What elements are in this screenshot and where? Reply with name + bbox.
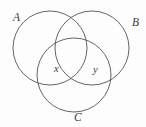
region-label-x: x: [54, 64, 59, 75]
region-label-y: y: [93, 65, 98, 76]
set-label-c: C: [74, 112, 82, 124]
circle-set-a: [13, 11, 87, 85]
circle-set-c: [37, 38, 111, 112]
circle-set-b: [55, 11, 129, 85]
set-label-b: B: [132, 17, 139, 29]
venn-diagram-figure: A B C x y: [0, 0, 146, 127]
set-label-a: A: [13, 12, 20, 24]
venn-diagram-canvas: [0, 0, 146, 127]
